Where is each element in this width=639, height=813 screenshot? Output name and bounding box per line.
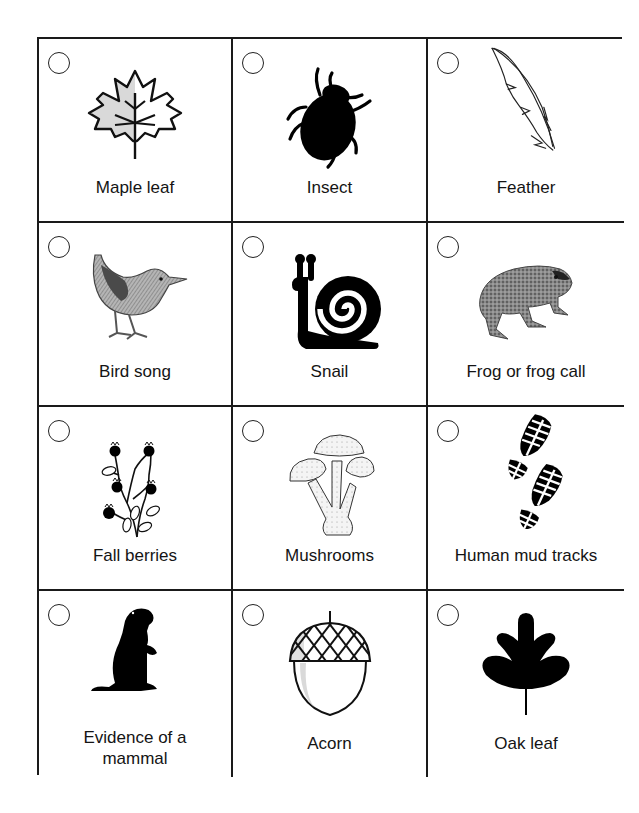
checkbox[interactable]: [48, 236, 70, 258]
grid-cell-human-mud-tracks[interactable]: Human mud tracks: [428, 407, 624, 591]
checkbox[interactable]: [242, 52, 264, 74]
grid-cell-snail[interactable]: Snail: [233, 223, 428, 407]
grid-cell-acorn[interactable]: Acorn: [233, 591, 428, 777]
feather-icon: [466, 43, 586, 159]
checkbox[interactable]: [242, 604, 264, 626]
checkbox[interactable]: [242, 420, 264, 442]
oak-leaf-icon: [466, 609, 586, 725]
scavenger-hunt-grid: Maple leaf Insect: [37, 37, 622, 775]
item-label: Acorn: [233, 733, 426, 754]
item-label-line-2: mammal: [39, 748, 231, 769]
item-label: Mushrooms: [233, 545, 426, 566]
item-label: Insect: [233, 177, 426, 198]
checkbox[interactable]: [437, 236, 459, 258]
title-fragment: [397, 0, 411, 4]
grid-cell-feather[interactable]: Feather: [428, 39, 624, 223]
grid-cell-mushrooms[interactable]: Mushrooms: [233, 407, 428, 591]
mushrooms-icon: [270, 425, 390, 541]
item-label-line-1: Evidence of a: [39, 727, 231, 748]
item-label: Feather: [428, 177, 624, 198]
grid-cell-evidence-of-mammal[interactable]: Evidence of a mammal: [39, 591, 233, 777]
item-label: Fall berries: [39, 545, 231, 566]
grid-cell-bird-song[interactable]: Bird song: [39, 223, 233, 407]
snail-icon: [270, 241, 390, 357]
checkbox[interactable]: [437, 420, 459, 442]
acorn-icon: [270, 609, 390, 725]
item-label: Maple leaf: [39, 177, 231, 198]
footprints-icon: [466, 413, 586, 529]
grid-cell-frog[interactable]: Frog or frog call: [428, 223, 624, 407]
grid-cell-oak-leaf[interactable]: Oak leaf: [428, 591, 624, 777]
groundhog-icon: [75, 605, 195, 705]
checkbox[interactable]: [48, 52, 70, 74]
grid-cell-maple-leaf[interactable]: Maple leaf: [39, 39, 233, 223]
beetle-icon: [270, 57, 390, 173]
checkbox[interactable]: [48, 420, 70, 442]
item-label: Evidence of a mammal: [39, 727, 231, 769]
grid-cell-fall-berries[interactable]: Fall berries: [39, 407, 233, 591]
checkbox[interactable]: [437, 52, 459, 74]
item-label: Bird song: [39, 361, 231, 382]
berries-icon: [75, 425, 195, 541]
maple-leaf-icon: [75, 57, 195, 173]
item-label: Oak leaf: [428, 733, 624, 754]
item-label: Human mud tracks: [428, 545, 624, 566]
item-label: Snail: [233, 361, 426, 382]
bird-icon: [75, 241, 195, 357]
checkbox[interactable]: [242, 236, 264, 258]
grid-cell-insect[interactable]: Insect: [233, 39, 428, 223]
checkbox[interactable]: [48, 604, 70, 626]
checkbox[interactable]: [437, 604, 459, 626]
item-label: Frog or frog call: [428, 361, 624, 382]
frog-icon: [466, 241, 586, 357]
